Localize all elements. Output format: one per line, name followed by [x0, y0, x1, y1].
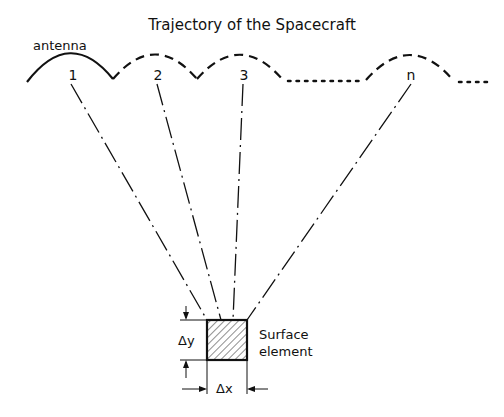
- dy-arrow-top: [183, 312, 189, 320]
- antenna-label: antenna: [33, 38, 87, 53]
- position-3-label: 3: [240, 67, 249, 83]
- dx-arrow-left: [199, 386, 207, 392]
- surface-label-line1: Surface: [259, 327, 309, 342]
- dx-arrow-right: [247, 386, 255, 392]
- surface-label-line2: element: [259, 344, 313, 359]
- diagram-title: Trajectory of the Spacecraft: [147, 16, 356, 34]
- line-of-sight-2: [157, 84, 221, 320]
- position-n-label: n: [407, 67, 416, 83]
- line-of-sight-1: [71, 84, 207, 320]
- line-of-sight-n: [247, 84, 411, 320]
- dy-arrow-bottom: [183, 360, 189, 368]
- surface-element: [207, 320, 247, 360]
- position-1-label: 1: [69, 67, 78, 83]
- line-of-sight-3: [233, 84, 243, 320]
- position-2-label: 2: [154, 67, 163, 83]
- dx-label: Δx: [216, 381, 233, 396]
- dy-label: Δy: [178, 333, 195, 348]
- spacecraft-trajectory-diagram: Trajectory of the Spacecraft antenna 1 2…: [0, 0, 504, 417]
